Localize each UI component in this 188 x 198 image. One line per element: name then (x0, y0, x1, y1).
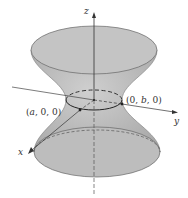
x-axis-label: x (18, 148, 23, 157)
z-axis-label: z (84, 7, 89, 16)
bottom-ellipse (34, 127, 160, 177)
hyperboloid-figure: z y x (a, 0, 0) (0, b, 0) (0, 0, 188, 198)
point-a-label: (a, 0, 0) (26, 108, 61, 117)
y-axis-label: y (174, 117, 179, 126)
point-b-label: (0, b, 0) (126, 96, 162, 105)
